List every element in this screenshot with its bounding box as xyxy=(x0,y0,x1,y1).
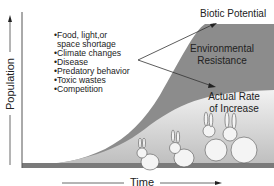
environmental-resistance-label-1: Environmental xyxy=(190,43,254,54)
factor-item: •Competition xyxy=(54,84,103,94)
actual-rate-label-1: Actual Rate xyxy=(208,91,260,102)
population-arrow-head-icon xyxy=(8,15,12,22)
time-arrow-head-icon xyxy=(215,181,222,185)
y-axis-label: Population xyxy=(4,58,16,110)
actual-rate-label-2: of Increase xyxy=(209,103,259,114)
limiting-factors-list: •Food, light,or space shortage •Climate … xyxy=(54,30,130,94)
environmental-resistance-label-2: Resistance xyxy=(197,55,247,66)
biotic-potential-label: Biotic Potential xyxy=(200,8,266,19)
x-axis-label: Time xyxy=(130,176,154,186)
population-diagram: Population Time •Food, light,or space sh… xyxy=(0,0,274,186)
